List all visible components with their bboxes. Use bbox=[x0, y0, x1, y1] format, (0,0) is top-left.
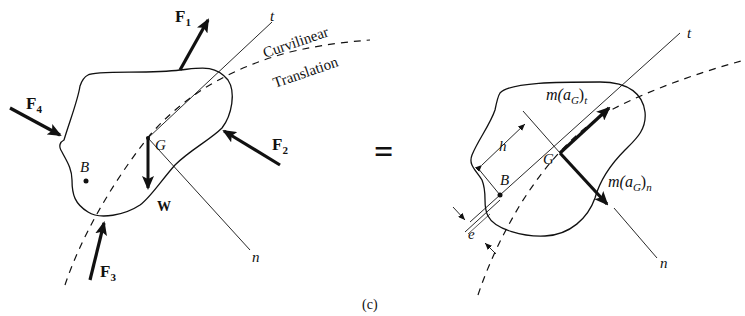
n-axis-label-right: n bbox=[660, 255, 668, 271]
left-free-body-diagram: F1 F4 F2 F3 W G B t n Curvilinear Transl… bbox=[10, 7, 370, 285]
f1-label: F1 bbox=[175, 7, 191, 28]
inertia-normal-label: m(aG)n bbox=[608, 173, 652, 193]
h-dimension-label: h bbox=[499, 138, 507, 154]
n-axis-label: n bbox=[252, 249, 260, 265]
curvilinear-path-dashed bbox=[65, 40, 370, 285]
curvilinear-label: Curvilinear bbox=[261, 23, 331, 60]
t-axis-label-right: t bbox=[687, 25, 692, 41]
n-axis-line-upper bbox=[523, 111, 560, 153]
h-reference-line bbox=[477, 167, 500, 195]
g-label-right: G bbox=[543, 151, 554, 167]
t-axis-line bbox=[148, 22, 272, 138]
weight-label: W bbox=[157, 199, 171, 214]
n-axis-line-lower bbox=[614, 208, 657, 258]
force-f1-arrow bbox=[180, 20, 208, 70]
rigid-body-outline-right bbox=[471, 82, 645, 236]
inertia-normal-arrow bbox=[560, 153, 607, 204]
inertia-tangential-arrow bbox=[560, 108, 609, 153]
b-point-right bbox=[498, 193, 503, 198]
inertia-tangential-label: m(aG)t bbox=[546, 86, 588, 106]
figure-caption: (c) bbox=[362, 297, 378, 313]
g-point bbox=[146, 136, 150, 140]
n-axis-line bbox=[148, 138, 250, 250]
rigid-body-outline bbox=[60, 68, 232, 216]
equals-sign: = bbox=[374, 133, 393, 170]
t-axis-label: t bbox=[270, 8, 275, 24]
f2-label: F2 bbox=[272, 135, 288, 156]
right-kinetic-diagram: m(aG)t m(aG)n G B h e t n bbox=[453, 25, 745, 295]
diagram-canvas: F1 F4 F2 F3 W G B t n Curvilinear Transl… bbox=[0, 0, 745, 316]
b-label-right: B bbox=[500, 172, 509, 188]
f4-label: F4 bbox=[26, 94, 42, 115]
translation-label: Translation bbox=[271, 53, 341, 90]
e-dimension-arrow-bottom bbox=[485, 243, 496, 254]
e-dimension-arrow-top bbox=[453, 207, 465, 220]
b-point bbox=[84, 179, 89, 184]
f3-label: F3 bbox=[100, 262, 116, 283]
e-dimension-label: e bbox=[468, 226, 475, 242]
b-label: B bbox=[80, 159, 89, 175]
g-label: G bbox=[155, 137, 166, 153]
